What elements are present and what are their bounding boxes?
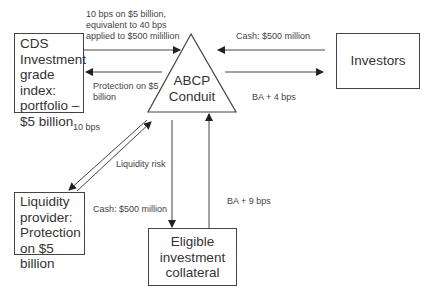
- investors-label: Investors: [351, 53, 406, 69]
- liquidity-fee-label: 10 bps: [73, 122, 100, 133]
- collateral-box: Eligible investment collateral: [148, 228, 237, 286]
- conduit-line1: ABCP: [160, 73, 224, 89]
- collateral-cash-label: Cash: $500 million: [93, 204, 167, 215]
- collateral-return-label: BA + 9 bps: [227, 196, 271, 207]
- collateral-line2: investment: [149, 250, 236, 266]
- cds-index-box: CDS Investment grade index: portfolio – …: [14, 33, 84, 113]
- liquidity-line2: provider:: [20, 210, 84, 226]
- cds-line4: portfolio –: [20, 98, 83, 114]
- liquidity-risk-label: Liquidity risk: [116, 159, 166, 170]
- conduit-label: ABCP Conduit: [160, 73, 224, 105]
- collateral-line1: Eligible: [149, 234, 236, 250]
- protection-label: Protection on $5 billion: [93, 81, 159, 103]
- investor-return-label: BA + 4 bps: [252, 92, 296, 103]
- cds-line3: grade index:: [20, 67, 83, 98]
- cds-premium-label: 10 bps on $5 billion, equivalent to 40 b…: [86, 9, 180, 42]
- collateral-line3: collateral: [149, 265, 236, 281]
- liquidity-line1: Liquidity: [20, 194, 84, 210]
- investor-cash-label: Cash: $500 million: [236, 31, 310, 42]
- liquidity-provider-box: Liquidity provider: Protection on $5 bil…: [14, 192, 85, 255]
- investors-box: Investors: [336, 33, 420, 89]
- conduit-line2: Conduit: [160, 89, 224, 105]
- cds-line2: Investment: [20, 52, 83, 68]
- cds-line1: CDS: [20, 36, 83, 52]
- liquidity-line4: on $5 billion: [20, 241, 84, 272]
- liquidity-line3: Protection: [20, 225, 84, 241]
